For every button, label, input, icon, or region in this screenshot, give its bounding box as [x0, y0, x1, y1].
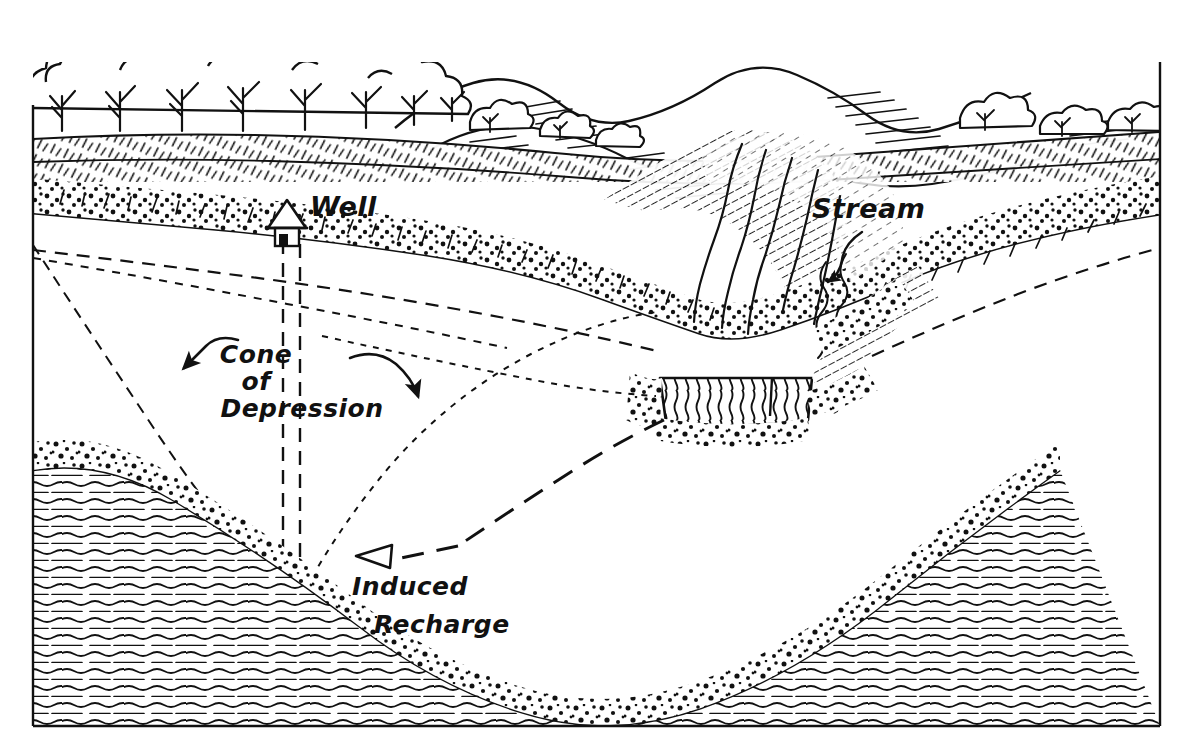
cone-label-line2: of [241, 367, 273, 396]
cone-label-line3: Depression [220, 394, 383, 423]
figure-canvas: Well Stream Cone of Depression Induced R… [0, 0, 1190, 752]
recharge-label-line2: Recharge [374, 610, 510, 639]
recharge-label-line1: Induced [352, 572, 469, 601]
stream-channel-section [660, 378, 812, 426]
stream-label: Stream [812, 193, 925, 224]
well-label: Well [310, 191, 377, 222]
hydrogeology-cross-section: Well Stream Cone of Depression Induced R… [0, 0, 1190, 752]
cone-label-line1: Cone [220, 340, 292, 369]
